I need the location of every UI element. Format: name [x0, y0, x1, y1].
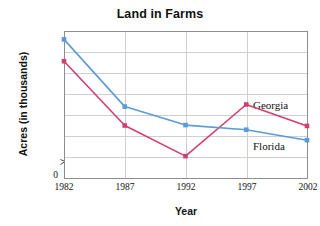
x-tick-label: 1987 [105, 182, 145, 192]
y-tick-label-zero: 0 [44, 170, 58, 180]
x-tick-label: 1982 [44, 182, 84, 192]
gridline-vertical [125, 32, 126, 178]
chart-title: Land in Farms [0, 7, 320, 21]
chart-figure: Land in Farms Acres (in thousands) Year … [0, 0, 320, 226]
gridline-vertical [186, 32, 187, 178]
x-axis-title: Year [62, 205, 310, 217]
x-tick-label: 1997 [227, 182, 267, 192]
x-tick-label: 2002 [288, 182, 320, 192]
gridline-vertical [247, 32, 248, 178]
series-label-florida: Florida [253, 140, 285, 152]
series-label-georgia: Georgia [253, 99, 288, 111]
x-tick-label: 1992 [166, 182, 206, 192]
y-axis-title: Acres (in thousands) [17, 29, 29, 179]
